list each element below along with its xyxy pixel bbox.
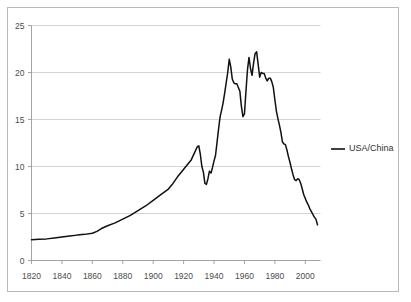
x-tick-label-1960: 1960	[235, 271, 254, 281]
chart-figure: 0510152025 18201840186018801900192019401…	[0, 0, 411, 302]
y-axis-tick-labels: 0510152025	[15, 21, 31, 266]
chart-legend: USA/China	[331, 143, 394, 153]
x-tick-label-1900: 1900	[144, 271, 163, 281]
x-tick-label-1880: 1880	[113, 271, 132, 281]
x-tick-label-1980: 1980	[265, 271, 284, 281]
chart-plot-svg: 0510152025 18201840186018801900192019401…	[0, 0, 411, 302]
plot-area-border	[32, 26, 321, 261]
x-tick-label-1820: 1820	[22, 271, 41, 281]
y-tick-label-15: 15	[15, 115, 25, 125]
x-tick-label-1860: 1860	[83, 271, 102, 281]
y-tick-label-10: 10	[15, 162, 25, 172]
x-tick-label-1840: 1840	[52, 271, 71, 281]
data-series-group	[32, 52, 318, 240]
x-tick-label-1920: 1920	[174, 271, 193, 281]
data-line-usa-china	[32, 52, 318, 240]
x-tick-label-1940: 1940	[205, 271, 224, 281]
legend-label-0: USA/China	[349, 143, 394, 153]
y-tick-label-25: 25	[15, 21, 25, 31]
y-tick-label-20: 20	[15, 68, 25, 78]
x-tick-label-2000: 2000	[296, 271, 315, 281]
gridlines-group	[32, 26, 321, 214]
y-tick-label-0: 0	[20, 256, 25, 266]
y-tick-label-5: 5	[20, 209, 25, 219]
x-axis-tick-labels: 1820184018601880190019201940196019802000	[22, 261, 315, 281]
